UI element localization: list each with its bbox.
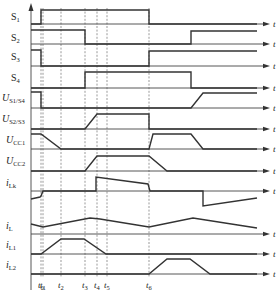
- time-axis-arrow-icon: [263, 189, 270, 193]
- time-axis-arrow-icon: [263, 147, 270, 151]
- time-axis-arrow-icon: [263, 232, 270, 236]
- waveform-US2S3: [31, 114, 257, 129]
- signal-label-S3: S3: [11, 51, 20, 63]
- time-marker-labels: t0t1t2t3t4t5t6: [38, 280, 153, 291]
- time-axis-label: t: [273, 166, 276, 176]
- time-marker-lines: [41, 8, 149, 278]
- waveform-iL: [31, 218, 257, 228]
- signal-label-S4: S4: [11, 72, 21, 84]
- time-axis-label: t: [273, 269, 276, 279]
- signal-label-US2S3: US2/S3: [2, 113, 25, 125]
- waveform-UCC1: [31, 134, 257, 149]
- waveform-S1: [31, 10, 257, 24]
- time-axis-arrow-icon: [263, 86, 270, 90]
- time-marker-label-t2: t2: [58, 280, 64, 291]
- signal-label-iLk: iLk: [6, 177, 17, 189]
- time-axis-arrow-icon: [263, 106, 270, 110]
- signal-label-S2: S2: [11, 32, 20, 44]
- time-axis-arrow-icon: [263, 22, 270, 26]
- signal-label-iL: iL: [6, 220, 13, 232]
- signal-label-UCC1: UCC1: [6, 134, 25, 146]
- time-marker-label-t5: t5: [104, 280, 110, 291]
- time-marker-label-t1: t1: [40, 280, 46, 291]
- time-axis-arrow-icon: [263, 42, 270, 46]
- time-axis-arrow-icon: [263, 169, 270, 173]
- signal-label-iL2: iL2: [6, 259, 16, 271]
- waveform-S2: [31, 30, 257, 44]
- signal-label-UCC2: UCC2: [6, 155, 25, 167]
- time-axis-label: t: [273, 83, 276, 93]
- waveform-iL2: [31, 259, 257, 274]
- signal-label-US1S4: US1/S4: [2, 92, 26, 104]
- waveform-S4: [31, 72, 257, 88]
- time-axis-arrow-icon: [263, 127, 270, 131]
- time-marker-label-t6: t6: [146, 280, 153, 291]
- time-axis-label: t: [273, 19, 276, 29]
- timing-diagram: tttttttttttt S1S2S3S4US1/S4US2/S3UCC1UCC…: [0, 0, 278, 297]
- time-axis-label: t: [273, 124, 276, 134]
- time-marker-label-t4: t4: [94, 280, 101, 291]
- time-axis-label: t: [273, 61, 276, 71]
- signal-labels: S1S2S3S4US1/S4US2/S3UCC1UCC2iLkiLiL1iL2: [2, 11, 26, 271]
- waveform-S3: [31, 50, 257, 66]
- waveform-UCC2: [31, 156, 257, 171]
- time-axis-label: t: [273, 144, 276, 154]
- waveform-iL1: [31, 239, 257, 254]
- time-axis-label: t: [273, 249, 276, 259]
- time-axis-label: t: [273, 39, 276, 49]
- time-axis-arrow-icon: [263, 64, 270, 68]
- time-marker-label-t3: t3: [82, 280, 88, 291]
- time-axis-arrow-icon: [263, 272, 270, 276]
- signal-label-S1: S1: [11, 11, 20, 23]
- time-axis-label: t: [273, 103, 276, 113]
- vertical-axis-arrow-icon: [29, 3, 34, 11]
- waveform-iLk: [31, 177, 257, 206]
- time-axis-label: t: [273, 229, 276, 239]
- waveform-US1S4: [31, 92, 257, 108]
- time-axis-label: t: [273, 186, 276, 196]
- signal-label-iL1: iL1: [6, 239, 16, 251]
- time-axis-arrow-icon: [263, 252, 270, 256]
